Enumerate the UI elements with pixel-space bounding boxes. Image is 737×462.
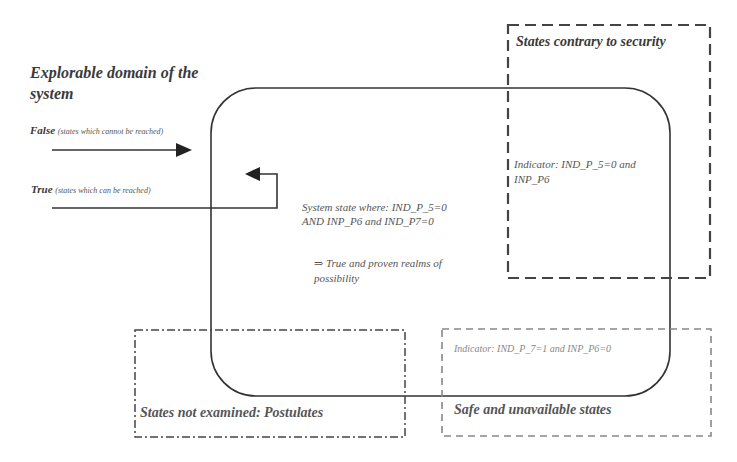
realms-text: ⇒ True and proven realms of possibility xyxy=(314,256,442,286)
contrary-box-title: States contrary to security xyxy=(516,34,666,50)
true-label-note: (states which can be reached) xyxy=(55,186,150,195)
false-label-strong: False xyxy=(30,124,55,136)
contrary-indicator: Indicator: IND_P_5=0 and INP_P6 xyxy=(514,157,636,187)
true-label: True (states which can be reached) xyxy=(31,183,151,195)
system-state-text: System state where: IND_P_5=0 AND INP_P6… xyxy=(302,200,447,228)
realms-line1: ⇒ True and proven realms of xyxy=(314,256,442,271)
contrary-indicator-line2: INP_P6 xyxy=(514,172,636,187)
contrary-indicator-line1: Indicator: IND_P_5=0 and xyxy=(514,157,636,172)
domain-title: Explorable domain of the system xyxy=(30,62,198,104)
domain-title-line2: system xyxy=(30,83,198,104)
realms-line2: possibility xyxy=(314,271,442,286)
false-label-note: (states which cannot be reached) xyxy=(58,127,163,136)
false-arrow xyxy=(52,143,192,157)
contrary-security-box xyxy=(508,25,710,278)
postulates-box-title: States not examined: Postulates xyxy=(140,405,323,421)
domain-title-line1: Explorable domain of the xyxy=(30,62,198,83)
false-label: False (states which cannot be reached) xyxy=(30,124,163,136)
safe-box-title: Safe and unavailable states xyxy=(454,402,612,418)
true-label-strong: True xyxy=(31,183,53,195)
system-state-line1: System state where: IND_P_5=0 xyxy=(302,200,447,214)
safe-indicator: Indicator: IND_P_7=1 and INP_P6=0 xyxy=(454,343,611,354)
system-state-line2: AND INP_P6 and IND_P7=0 xyxy=(302,214,447,228)
